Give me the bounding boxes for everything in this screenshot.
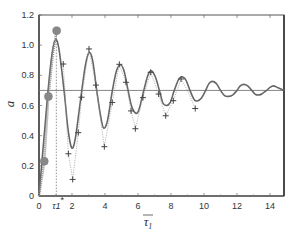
- x-tick-label: 0: [36, 201, 41, 211]
- y-tick-label: 0: [29, 191, 34, 201]
- cross-marker: [101, 144, 107, 150]
- x-tick-label: 12: [232, 201, 242, 211]
- axes-frame: [39, 15, 284, 196]
- series-layer: [39, 27, 284, 196]
- circle-marker: [44, 92, 52, 100]
- cross-marker: [132, 126, 138, 132]
- cross-marker: [79, 94, 85, 100]
- x-axis-label-subscript: 1: [148, 222, 152, 231]
- y-tick-label: 0.8: [21, 70, 34, 80]
- x-tick-label: 2: [69, 201, 74, 211]
- y-tick-label: 0.6: [21, 101, 34, 111]
- cross-marker: [123, 79, 129, 85]
- cross-marker: [163, 113, 169, 119]
- cross-marker: [65, 151, 71, 157]
- y-tick-label: 0.4: [21, 131, 34, 141]
- x-tick-label: 14: [265, 201, 275, 211]
- x-axis-label: τ1: [144, 214, 153, 231]
- cross-marker: [192, 106, 198, 112]
- circle-marker: [53, 27, 61, 35]
- cross-marker: [70, 176, 76, 182]
- y-axis-label: a: [2, 100, 17, 107]
- chart: 0246810121400.20.40.60.81.01.2 τ1* τ1 a: [0, 0, 299, 239]
- cross-marker: [93, 82, 99, 88]
- tau-star-superscript: *: [61, 195, 65, 205]
- y-tick-label: 0.2: [21, 161, 34, 171]
- y-tick-label: 1.0: [21, 40, 34, 50]
- x-tick-label: 8: [168, 201, 173, 211]
- x-tick-label: 6: [135, 201, 140, 211]
- cross-marker: [86, 46, 92, 52]
- x-tick-label: 10: [199, 201, 209, 211]
- tau-star-annotation: τ1*: [52, 32, 64, 211]
- dotted-series-line: [63, 49, 195, 180]
- tau-star-label: τ1: [52, 201, 60, 211]
- x-tick-label: 4: [102, 201, 107, 211]
- y-tick-label: 1.2: [21, 10, 34, 20]
- circle-marker: [40, 157, 48, 165]
- ticks: 0246810121400.20.40.60.81.01.2: [21, 10, 274, 211]
- solid-series-line: [39, 40, 284, 196]
- initial-rise-line: [39, 31, 57, 196]
- plot-frame: [39, 15, 284, 196]
